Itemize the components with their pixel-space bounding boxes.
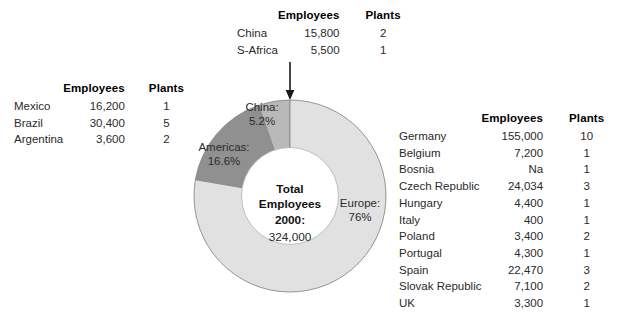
cell-region: Brazil <box>14 115 63 132</box>
cell-region: Poland <box>399 229 481 246</box>
cell-region: China <box>237 26 278 43</box>
cell-employees: 5,500 <box>278 42 366 59</box>
asia-africa-table: Employees Plants China 15,800 2 S-Africa… <box>237 10 401 59</box>
table-row: Mexico 16,200 1 <box>14 99 184 116</box>
cell-plants: 1 <box>569 212 604 229</box>
cell-employees: 7,200 <box>481 145 569 162</box>
center-line-1: Total <box>241 182 339 197</box>
slice-label-europe: Europe: 76% <box>331 196 389 224</box>
col-header-region <box>237 10 278 26</box>
cell-region: Hungary <box>399 195 481 212</box>
table-row: China 15,800 2 <box>237 26 401 43</box>
slice-label-europe-pct: 76% <box>348 211 371 223</box>
col-header-region <box>14 83 63 99</box>
col-header-plants: Plants <box>149 83 184 99</box>
slice-label-china: China: 5.2% <box>233 100 291 128</box>
cell-employees: 24,034 <box>481 179 569 196</box>
table-row: Bosnia Na 1 <box>399 162 604 179</box>
cell-employees: Na <box>481 162 569 179</box>
cell-plants: 1 <box>569 195 604 212</box>
center-line-2: Employees <box>241 197 339 212</box>
europe-table: Employees Plants Germany 155,000 10 Belg… <box>399 113 604 312</box>
center-total-value: 324,000 <box>241 230 339 245</box>
table-row: Brazil 30,400 5 <box>14 115 184 132</box>
table-row: Argentina 3,600 2 <box>14 132 184 149</box>
table-row: Portugal 4,300 1 <box>399 245 604 262</box>
center-line-3: 2000: <box>241 213 339 228</box>
cell-employees: 4,300 <box>481 245 569 262</box>
cell-employees: 30,400 <box>63 115 149 132</box>
cell-region: Portugal <box>399 245 481 262</box>
table-row: Belgium 7,200 1 <box>399 145 604 162</box>
cell-plants: 1 <box>569 295 604 312</box>
col-header-employees: Employees <box>481 113 569 129</box>
cell-employees: 400 <box>481 212 569 229</box>
table-header-row: Employees Plants <box>399 113 604 129</box>
slice-label-americas: Americas: 16.6% <box>186 140 262 168</box>
table-row: Italy 400 1 <box>399 212 604 229</box>
americas-table: Employees Plants Mexico 16,200 1 Brazil … <box>14 83 184 149</box>
slice-label-china-pct: 5.2% <box>249 115 275 127</box>
col-header-plants: Plants <box>569 113 604 129</box>
cell-employees: 16,200 <box>63 99 149 116</box>
china-pointer-arrow-icon <box>284 62 296 102</box>
col-header-plants: Plants <box>366 10 401 26</box>
cell-employees: 7,100 <box>481 279 569 296</box>
table-row: S-Africa 5,500 1 <box>237 42 401 59</box>
cell-employees: 3,600 <box>63 132 149 149</box>
cell-plants: 3 <box>569 262 604 279</box>
cell-plants: 10 <box>569 129 604 146</box>
slice-label-americas-pct: 16.6% <box>208 155 241 167</box>
table-row: Czech Republic 24,034 3 <box>399 179 604 196</box>
donut-center-text: Total Employees 2000: 324,000 <box>241 182 339 245</box>
col-header-employees: Employees <box>63 83 149 99</box>
cell-employees: 3,300 <box>481 295 569 312</box>
table-row: Germany 155,000 10 <box>399 129 604 146</box>
cell-plants: 2 <box>366 26 401 43</box>
cell-region: S-Africa <box>237 42 278 59</box>
cell-plants: 2 <box>569 279 604 296</box>
cell-employees: 22,470 <box>481 262 569 279</box>
cell-region: Italy <box>399 212 481 229</box>
cell-plants: 1 <box>569 145 604 162</box>
cell-employees: 4,400 <box>481 195 569 212</box>
cell-region: Czech Republic <box>399 179 481 196</box>
col-header-region <box>399 113 481 129</box>
slice-label-americas-name: Americas: <box>198 141 249 153</box>
cell-region: Belgium <box>399 145 481 162</box>
cell-region: Slovak Republic <box>399 279 481 296</box>
table-row: Hungary 4,400 1 <box>399 195 604 212</box>
cell-plants: 5 <box>149 115 184 132</box>
col-header-employees: Employees <box>278 10 366 26</box>
slice-label-europe-name: Europe: <box>340 197 380 209</box>
cell-plants: 1 <box>149 99 184 116</box>
cell-region: Germany <box>399 129 481 146</box>
cell-employees: 155,000 <box>481 129 569 146</box>
cell-region: Mexico <box>14 99 63 116</box>
table-row: Spain 22,470 3 <box>399 262 604 279</box>
cell-plants: 2 <box>569 229 604 246</box>
cell-employees: 15,800 <box>278 26 366 43</box>
table-row: UK 3,300 1 <box>399 295 604 312</box>
cell-employees: 3,400 <box>481 229 569 246</box>
cell-plants: 1 <box>569 245 604 262</box>
cell-region: Bosnia <box>399 162 481 179</box>
table-header-row: Employees Plants <box>237 10 401 26</box>
cell-region: UK <box>399 295 481 312</box>
cell-region: Spain <box>399 262 481 279</box>
table-row: Poland 3,400 2 <box>399 229 604 246</box>
cell-plants: 1 <box>569 162 604 179</box>
cell-plants: 2 <box>149 132 184 149</box>
slice-label-china-name: China: <box>245 101 278 113</box>
cell-plants: 3 <box>569 179 604 196</box>
cell-plants: 1 <box>366 42 401 59</box>
table-row: Slovak Republic 7,100 2 <box>399 279 604 296</box>
table-header-row: Employees Plants <box>14 83 184 99</box>
cell-region: Argentina <box>14 132 63 149</box>
